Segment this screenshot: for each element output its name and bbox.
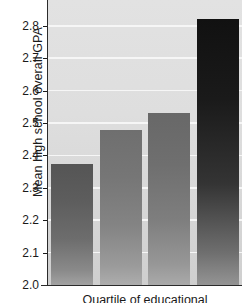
bar-chart-figure: Mean high school overall GPA 2.02.12.22.… (0, 0, 242, 303)
bar (100, 130, 142, 285)
y-tick-label: 2.3 (22, 181, 39, 195)
y-tick-label: 2.8 (22, 19, 39, 33)
y-axis-line (47, 0, 48, 286)
bar (197, 19, 239, 285)
bar (148, 113, 190, 285)
x-axis-title: Quartile of educational (48, 293, 242, 303)
y-tick-label: 2.7 (22, 51, 39, 65)
y-tick-label: 2.5 (22, 116, 39, 130)
y-tick-label: 2.1 (22, 246, 39, 260)
x-axis-line (41, 285, 242, 286)
bar (51, 164, 93, 285)
y-axis-tick-labels: 2.02.12.22.32.42.52.62.72.8 (0, 0, 43, 303)
y-tick-label: 2.2 (22, 213, 39, 227)
plot-area (48, 0, 242, 285)
y-tick-label: 2.6 (22, 84, 39, 98)
y-tick-label: 2.0 (22, 278, 39, 292)
y-tick-label: 2.4 (22, 148, 39, 162)
